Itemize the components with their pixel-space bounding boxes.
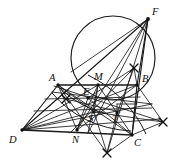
label-N: N	[71, 134, 80, 145]
segment-S-to-right	[94, 112, 163, 122]
point-D	[20, 128, 23, 131]
label-M: M	[93, 71, 104, 82]
geometry-figure: A B C D E F M N S T	[0, 0, 183, 164]
point-B	[135, 83, 138, 86]
figure-canvas: A B C D E F M N S T	[0, 0, 183, 164]
tick-mark-lower	[103, 149, 111, 157]
label-C: C	[134, 137, 142, 148]
label-D: D	[8, 134, 17, 145]
segment-markupper-down	[117, 68, 134, 113]
point-F	[146, 17, 150, 21]
point-A	[56, 83, 59, 86]
segment-A-through-T	[54, 86, 163, 122]
label-S: S	[88, 113, 94, 124]
label-A: A	[48, 72, 56, 83]
segment-F-chord	[71, 19, 148, 72]
segment-S-to-marklower	[94, 112, 107, 153]
point-M	[96, 83, 99, 86]
label-B: B	[142, 73, 149, 84]
point-N	[75, 128, 78, 131]
segment-C-to-markright	[132, 122, 163, 135]
label-E: E	[82, 86, 90, 97]
label-F: F	[151, 6, 159, 17]
